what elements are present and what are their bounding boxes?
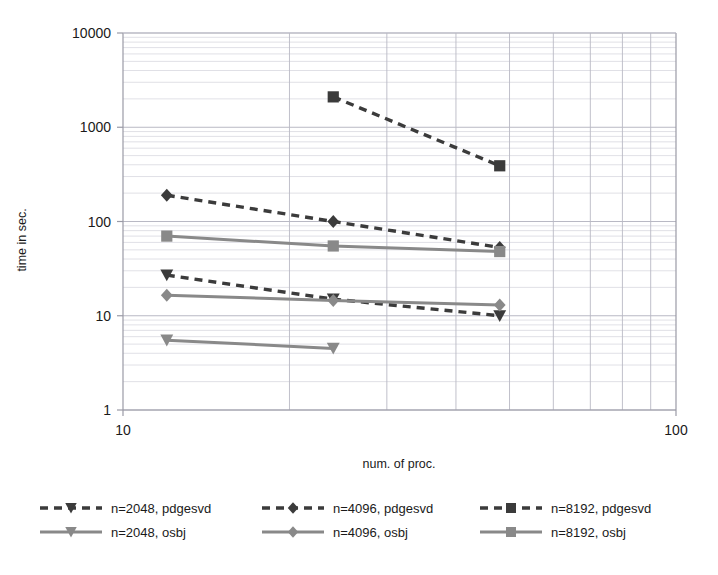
chart-container: 110100100010000 10100 time in sec. num. …: [0, 0, 718, 575]
legend-label: n=4096, osbj: [333, 525, 408, 540]
marker-square: [494, 246, 505, 257]
marker-square: [506, 527, 516, 537]
legend-label: n=2048, pdgesvd: [111, 501, 211, 516]
x-axis-title: num. of proc.: [363, 457, 436, 471]
log-log-line-chart: 110100100010000 10100 time in sec. num. …: [0, 0, 718, 575]
legend-label: n=8192, pdgesvd: [551, 501, 651, 516]
y-tick-label: 1: [103, 402, 111, 418]
legend-label: n=4096, pdgesvd: [333, 501, 433, 516]
marker-square: [328, 240, 339, 251]
legend-label: n=8192, osbj: [551, 525, 626, 540]
y-tick-label: 1000: [80, 119, 111, 135]
x-tick-label: 10: [115, 422, 131, 438]
legend-label: n=2048, osbj: [111, 525, 186, 540]
y-tick-label: 100: [88, 214, 112, 230]
marker-square: [506, 503, 516, 513]
marker-square: [328, 91, 339, 102]
y-tick-label: 10000: [72, 25, 111, 41]
y-tick-label: 10: [95, 308, 111, 324]
y-axis-title: time in sec.: [15, 208, 29, 271]
x-tick-label: 100: [664, 422, 688, 438]
marker-square: [494, 160, 505, 171]
marker-square: [161, 230, 172, 241]
